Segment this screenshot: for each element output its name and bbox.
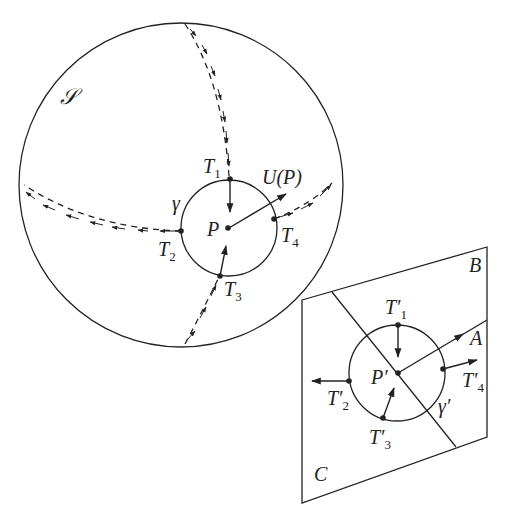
point-T2	[178, 228, 184, 234]
sphere-label: 𝒮	[60, 84, 83, 109]
tangent-T3	[220, 246, 226, 276]
label-T2-prime: T′2	[327, 387, 349, 413]
arc-from-T4-arrows	[276, 185, 331, 218]
point-P-prime-label: P′	[370, 366, 388, 388]
arc-from-T2	[24, 185, 181, 231]
label-T1: T1	[203, 155, 221, 181]
tangent-T3-prime	[383, 388, 394, 418]
label-T4: T4	[281, 224, 299, 250]
tangent-T4-prime	[443, 360, 477, 369]
label-T3: T3	[224, 278, 242, 304]
point-P-label: P	[206, 218, 219, 240]
gamma-label: γ	[172, 192, 181, 215]
label-T3-prime: T′3	[369, 426, 391, 452]
tangent-plane	[302, 247, 487, 503]
label-T2: T2	[158, 238, 176, 264]
sphere-projection-diagram: 𝒮 γ P U(P)	[0, 0, 508, 516]
label-T4-prime: T′4	[462, 369, 485, 395]
region-B-label: B	[469, 254, 481, 276]
arc-to-T1-arrows	[190, 29, 229, 166]
point-T4	[271, 216, 277, 222]
region-C-label: C	[314, 463, 328, 485]
gamma-prime-label: γ′	[438, 395, 451, 418]
vector-U	[229, 194, 286, 228]
arc-to-T1	[185, 24, 229, 176]
projected-vector-U-arrow	[455, 334, 463, 339]
arc-to-T3	[185, 277, 219, 344]
label-T1-prime: T′1	[385, 296, 407, 322]
arc-from-T2-arrows	[26, 192, 178, 231]
region-A-label: A	[468, 327, 483, 349]
vector-U-label: U(P)	[262, 166, 302, 189]
arc-from-T4	[274, 183, 332, 219]
